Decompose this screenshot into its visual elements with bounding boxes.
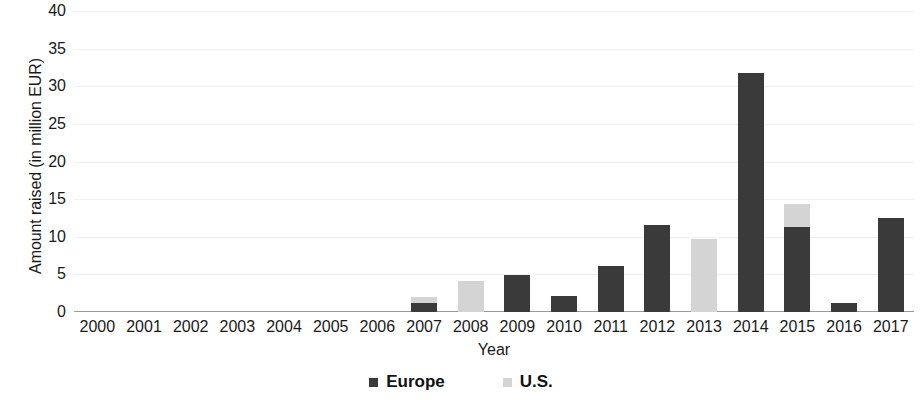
bar-segment-us (784, 204, 810, 227)
bar-stack (458, 281, 484, 312)
x-axis-tick-label: 2000 (74, 314, 121, 340)
bar-slot (307, 11, 354, 312)
bar-slot (121, 11, 168, 312)
plot-area (74, 11, 914, 312)
y-axis-tick-label: 15 (30, 191, 66, 207)
bar-slot (261, 11, 308, 312)
chart-legend: EuropeU.S. (0, 372, 922, 392)
y-axis-tick-label: 30 (30, 78, 66, 94)
bar-slot (447, 11, 494, 312)
x-axis-tick-labels: 2000200120022003200420052006200720082009… (74, 314, 914, 340)
bar-segment-europe (411, 303, 437, 312)
y-axis-tick-label: 40 (30, 3, 66, 19)
bar-slot (167, 11, 214, 312)
y-axis-tick-label: 20 (30, 154, 66, 170)
bar-segment-europe (831, 303, 857, 312)
x-axis-tick-label: 2010 (541, 314, 588, 340)
bar-stack (831, 303, 857, 312)
x-axis-tick-label: 2012 (634, 314, 681, 340)
bar-slot (214, 11, 261, 312)
x-axis-tick-label: 2002 (167, 314, 214, 340)
x-axis-tick-label: 2017 (867, 314, 914, 340)
bar-slot (494, 11, 541, 312)
x-axis-tick-label: 2014 (727, 314, 774, 340)
x-axis-tick-label: 2003 (214, 314, 261, 340)
bar-stack (691, 239, 717, 312)
y-axis-tick-label: 35 (30, 41, 66, 57)
x-axis-tick-label: 2004 (261, 314, 308, 340)
x-axis-tick-label: 2007 (401, 314, 448, 340)
y-axis-tick-label: 10 (30, 229, 66, 245)
bar-stack (878, 218, 904, 312)
bar-segment-europe (644, 225, 670, 312)
bar-stack (738, 73, 764, 312)
bar-segment-europe (738, 73, 764, 312)
legend-item[interactable]: U.S. (503, 372, 553, 392)
bar-slot (587, 11, 634, 312)
bar-segment-europe (784, 227, 810, 312)
y-axis-tick-label: 5 (30, 266, 66, 282)
legend-label: U.S. (520, 372, 553, 392)
bar-stack (504, 275, 530, 312)
x-axis-tick-label: 2015 (774, 314, 821, 340)
bar-segment-europe (598, 266, 624, 312)
bar-slot (634, 11, 681, 312)
legend-swatch-icon (503, 378, 512, 387)
bar-stack (551, 296, 577, 312)
bar-chart: Amount raised (in million EUR) 051015202… (0, 0, 922, 400)
bar-series-group (74, 11, 914, 312)
bar-segment-us (691, 239, 717, 312)
x-axis-tick-label: 2009 (494, 314, 541, 340)
x-axis-tick-label: 2008 (447, 314, 494, 340)
bar-slot (727, 11, 774, 312)
bar-segment-us (458, 281, 484, 312)
legend-swatch-icon (369, 378, 378, 387)
x-axis-tick-label: 2001 (121, 314, 168, 340)
bar-segment-europe (551, 296, 577, 312)
y-axis-tick-label: 0 (30, 304, 66, 320)
bar-slot (541, 11, 588, 312)
bar-slot (354, 11, 401, 312)
legend-item[interactable]: Europe (369, 372, 445, 392)
bar-slot (401, 11, 448, 312)
legend-label: Europe (386, 372, 445, 392)
x-axis-tick-label: 2013 (681, 314, 728, 340)
y-axis-tick-label: 25 (30, 116, 66, 132)
bar-stack (598, 266, 624, 312)
bar-segment-europe (878, 218, 904, 312)
x-axis-tick-label: 2011 (587, 314, 634, 340)
y-axis-tick-labels: 0510152025303540 (30, 0, 66, 325)
bar-segment-europe (504, 275, 530, 312)
bar-stack (411, 297, 437, 312)
bar-stack (784, 204, 810, 312)
bar-slot (867, 11, 914, 312)
bar-stack (644, 225, 670, 312)
x-axis-title: Year (74, 341, 914, 359)
x-axis-tick-label: 2016 (821, 314, 868, 340)
bar-slot (74, 11, 121, 312)
bar-slot (681, 11, 728, 312)
bar-slot (821, 11, 868, 312)
bar-slot (774, 11, 821, 312)
x-axis-tick-label: 2006 (354, 314, 401, 340)
x-axis-tick-label: 2005 (307, 314, 354, 340)
